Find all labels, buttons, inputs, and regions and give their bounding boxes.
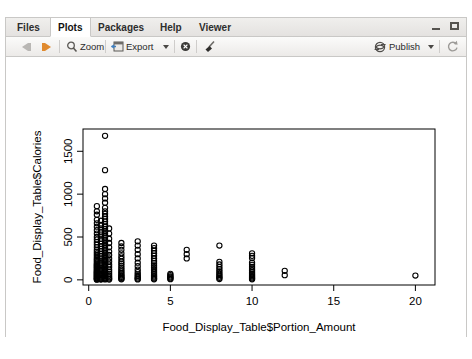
plots-pane-window: Files Plots Packages Help Viewer [5,17,467,337]
x-tick-label: 5 [167,295,173,307]
data-points [94,133,418,282]
tab-files[interactable]: Files [10,18,50,37]
export-button-label[interactable]: Export [126,37,153,56]
y-tick-label: 1000 [62,181,74,207]
minimize-icon[interactable] [430,21,442,32]
toolbar-separator-3 [174,40,175,53]
tab-viewer[interactable]: Viewer [192,18,240,37]
chevron-down-icon[interactable] [163,45,169,49]
x-tick-label: 15 [327,295,340,307]
x-tick-label: 20 [409,295,422,307]
rstudio-plots-pane: Files Plots Packages Help Viewer [0,0,472,359]
toolbar-separator-4 [196,40,197,53]
y-tick-label: 500 [62,227,74,246]
x-tick-label: 10 [246,295,259,307]
toolbar-separator-2 [105,40,106,53]
publish-chevron-down-icon[interactable] [428,45,434,49]
toolbar-separator-5 [439,40,440,53]
scatter-plot: 05101520050010001500Food_Display_Table$P… [6,57,466,337]
x-axis-label: Food_Display_Table$Portion_Amount [162,321,356,333]
y-tick-label: 0 [62,277,74,283]
plot-canvas: 05101520050010001500Food_Display_Table$P… [6,57,466,337]
zoom-button-label[interactable]: Zoom [80,37,104,56]
toolbar-separator-1 [59,40,60,53]
publish-button-label[interactable]: Publish [389,37,420,56]
tab-help[interactable]: Help [153,18,192,37]
x-tick-label: 0 [86,295,92,307]
plots-toolbar: Zoom Export [6,37,466,57]
window-buttons [427,21,461,34]
y-axis-label: Food_Display_Table$Calories [31,130,43,283]
y-tick-label: 1500 [62,138,74,164]
tab-packages[interactable]: Packages [91,18,153,37]
pane-tab-bar: Files Plots Packages Help Viewer [6,18,466,37]
tab-plots[interactable]: Plots [50,18,91,37]
maximize-icon[interactable] [449,21,461,32]
